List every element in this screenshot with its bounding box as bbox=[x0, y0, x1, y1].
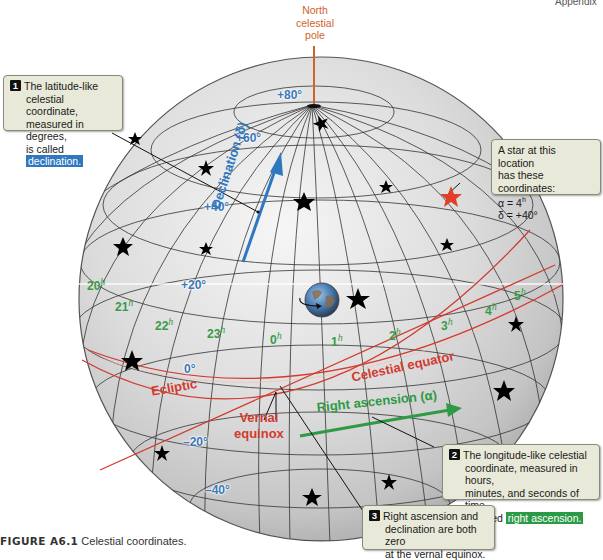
hour-label-22: 22h bbox=[155, 316, 173, 333]
callout-text: at the vernal equinox. bbox=[369, 548, 488, 560]
callout-vernal-equinox: 3Right ascension and declination are bot… bbox=[362, 505, 495, 550]
hour-label-4: 4h bbox=[485, 301, 497, 318]
hour-value: 23 bbox=[207, 327, 220, 341]
hour-suffix: h bbox=[168, 316, 173, 327]
hour-suffix: h bbox=[448, 316, 453, 327]
hour-suffix: h bbox=[128, 297, 133, 308]
callout-text: declination are both zero bbox=[369, 523, 488, 548]
vernal-label-line: equinox bbox=[234, 426, 284, 442]
callout-text: The latitude-like bbox=[24, 80, 98, 92]
hour-label-3: 3h bbox=[441, 316, 453, 333]
callout-declination: 1The latitude-like celestial coordinate,… bbox=[3, 75, 123, 131]
right-ascension-term-highlight: right ascension. bbox=[506, 512, 584, 524]
hour-label-21: 21h bbox=[115, 297, 133, 314]
vernal-equinox-label: Vernal equinox bbox=[234, 410, 284, 442]
callout-number-badge: 2 bbox=[449, 449, 460, 460]
hour-label-2: 2h bbox=[389, 326, 401, 343]
callout-star-coordinates: A star at this location has these coordi… bbox=[491, 139, 601, 195]
hour-value: 1 bbox=[331, 335, 338, 349]
hour-value: 22 bbox=[155, 319, 168, 333]
callout-text: The longitude-like celestial bbox=[463, 449, 587, 461]
vernal-label-line: Vernal bbox=[234, 410, 284, 426]
hour-value: 2 bbox=[389, 329, 396, 343]
pole-label-line: North bbox=[290, 4, 340, 17]
delta-value: δ = +40° bbox=[498, 209, 594, 222]
declination-label-minus40: –40° bbox=[205, 483, 230, 497]
callout-right-ascension: 2The longitude-like celestial coordinate… bbox=[442, 444, 600, 500]
figure-title: Celestial coordinates. bbox=[78, 535, 186, 547]
callout-text: measured in degrees, bbox=[10, 118, 116, 143]
hour-label-1: 1h bbox=[331, 332, 343, 349]
hour-value: 21 bbox=[115, 300, 128, 314]
hour-value: 5 bbox=[514, 289, 521, 303]
hour-suffix: h bbox=[492, 301, 497, 312]
hour-label-0: 0h bbox=[270, 330, 282, 347]
hour-suffix: h bbox=[100, 276, 105, 287]
figure-caption: FIGURE A6.1 Celestial coordinates. bbox=[0, 535, 187, 547]
callout-text: Right ascension and bbox=[383, 510, 478, 522]
hour-suffix: h bbox=[396, 326, 401, 337]
pole-label-line: celestial bbox=[290, 17, 340, 30]
hour-value: 3 bbox=[441, 319, 448, 333]
figure-number: FIGURE A6.1 bbox=[0, 535, 78, 547]
callout-number-badge: 3 bbox=[369, 510, 380, 521]
declination-label-plus20: +20° bbox=[181, 278, 206, 292]
declination-label-zero: 0° bbox=[184, 362, 195, 376]
callout-text: is called bbox=[26, 143, 64, 155]
alpha-sup: h bbox=[522, 196, 526, 203]
callout-text: A star at this location bbox=[498, 144, 594, 169]
declination-label-minus20: –20° bbox=[183, 435, 208, 449]
hour-suffix: h bbox=[220, 324, 225, 335]
hour-value: 20 bbox=[87, 279, 100, 293]
pole-label-line: pole bbox=[290, 29, 340, 42]
hour-label-20: 20h bbox=[87, 276, 105, 293]
callout-number-badge: 1 bbox=[10, 80, 21, 91]
hour-suffix: h bbox=[521, 286, 526, 297]
hour-value: 4 bbox=[485, 304, 492, 318]
hour-label-23: 23h bbox=[207, 324, 225, 341]
hour-label-5: 5h bbox=[514, 286, 526, 303]
callout-text: celestial coordinate, bbox=[10, 93, 116, 118]
callout-text: coordinate, measured in hours, bbox=[449, 462, 593, 487]
declination-label-plus80: +80° bbox=[277, 88, 302, 102]
alpha-value: α = 4 bbox=[498, 197, 522, 209]
hour-suffix: h bbox=[277, 330, 282, 341]
hour-value: 0 bbox=[270, 333, 277, 347]
callout-text: has these coordinates: bbox=[498, 169, 594, 194]
declination-term-highlight: declination. bbox=[26, 155, 83, 167]
north-celestial-pole-label: North celestial pole bbox=[290, 4, 340, 42]
hour-suffix: h bbox=[338, 332, 343, 343]
